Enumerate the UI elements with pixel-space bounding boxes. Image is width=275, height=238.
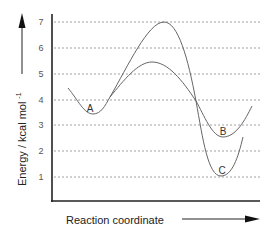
- tick-4: 4: [38, 95, 43, 105]
- x-axis-arrowhead-icon: [245, 216, 260, 223]
- y-axis-label: Energy / kcal mol-1: [15, 92, 28, 186]
- point-label-c: C: [218, 165, 225, 176]
- x-axis-label: Reaction coordinate: [66, 214, 164, 226]
- energy-curves: [68, 22, 252, 176]
- tick-1: 1: [38, 172, 43, 182]
- energy-diagram: 7 6 5 4 3 2 1 A B C Energy / kcal mol-1 …: [0, 0, 275, 238]
- curve-path-to-c: [110, 22, 243, 176]
- tick-5: 5: [38, 69, 43, 79]
- gridlines: [54, 22, 262, 177]
- point-label-a: A: [87, 103, 94, 114]
- y-axis-arrowhead-icon: [19, 13, 26, 28]
- y-tick-labels: 7 6 5 4 3 2 1: [38, 17, 43, 182]
- tick-2: 2: [38, 146, 43, 156]
- y-axis-label-group: Energy / kcal mol-1: [15, 13, 28, 186]
- point-label-b: B: [220, 126, 227, 137]
- tick-3: 3: [38, 120, 43, 130]
- x-axis-label-group: Reaction coordinate: [66, 214, 260, 226]
- tick-7: 7: [38, 17, 43, 27]
- curve-path-to-b: [110, 62, 252, 137]
- tick-6: 6: [38, 43, 43, 53]
